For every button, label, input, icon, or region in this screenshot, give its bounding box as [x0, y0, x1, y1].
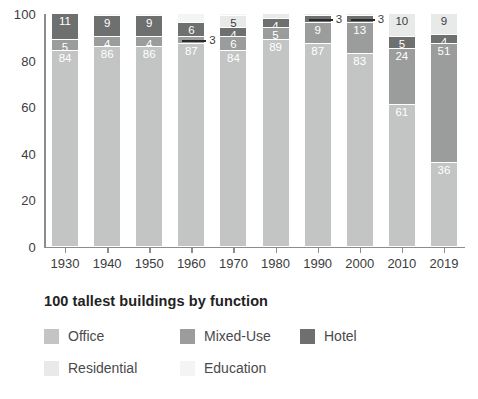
- bar-segment-value: 10: [389, 15, 415, 27]
- x-tick-mark: [149, 248, 150, 253]
- bar-segment-office[interactable]: 87: [305, 44, 331, 247]
- x-tick-label: 1970: [219, 256, 248, 271]
- legend-item-mixed_use[interactable]: Mixed-Use: [180, 328, 271, 344]
- bar-segment-mixed_use[interactable]: 4: [136, 37, 162, 46]
- x-tick-label: 1960: [177, 256, 206, 271]
- bar-segment-hotel[interactable]: 3: [347, 16, 373, 23]
- y-axis: 020406080100: [0, 0, 40, 290]
- legend-row: OfficeMixed-UseHotel: [44, 322, 464, 354]
- bar-segment-office[interactable]: 84: [220, 51, 246, 247]
- bar-2019[interactable]: 945136: [431, 14, 457, 247]
- bar-segment-value: 86: [136, 48, 162, 60]
- x-tick-mark: [360, 248, 361, 253]
- y-tick-label: 40: [21, 146, 36, 161]
- y-tick-label: 60: [21, 100, 36, 115]
- bar-segment-office[interactable]: 87: [178, 44, 204, 247]
- bar-1940[interactable]: 9486: [94, 14, 120, 247]
- bar-segment-value: 11: [52, 15, 78, 27]
- bar-segment-hotel[interactable]: 4: [431, 35, 457, 44]
- legend-item-hotel[interactable]: Hotel: [300, 328, 357, 344]
- bar-segment-office[interactable]: 61: [389, 105, 415, 247]
- y-tick-label: 20: [21, 193, 36, 208]
- x-tick-mark: [65, 248, 66, 253]
- legend-item-education[interactable]: Education: [180, 360, 266, 376]
- x-tick-mark: [276, 248, 277, 253]
- stacked-bar-chart: 020406080100 115849486948663875468445893…: [0, 0, 478, 399]
- bar-2000[interactable]: 31383: [347, 14, 373, 247]
- bar-segment-value: 9: [136, 17, 162, 29]
- bars-layer: 1158494869486638754684458939873138310524…: [44, 14, 465, 247]
- bar-segment-value: 36: [431, 164, 457, 176]
- x-tick-mark: [444, 248, 445, 253]
- chart-legend: OfficeMixed-UseHotelResidentialEducation: [44, 322, 464, 386]
- legend-swatch-education: [180, 361, 195, 376]
- bar-segment-office[interactable]: 89: [263, 40, 289, 247]
- bar-segment-hotel[interactable]: 6: [178, 23, 204, 37]
- bar-segment-education[interactable]: [178, 14, 204, 23]
- bar-segment-mixed_use[interactable]: 5: [52, 40, 78, 52]
- x-tick-label: 2000: [345, 256, 374, 271]
- bar-segment-mixed_use[interactable]: 4: [94, 37, 120, 46]
- bar-segment-hotel[interactable]: 4: [220, 28, 246, 37]
- bar-segment-mixed_use[interactable]: 13: [347, 23, 373, 53]
- bar-segment-mixed_use[interactable]: 24: [389, 49, 415, 105]
- x-tick-label: 2010: [387, 256, 416, 271]
- bar-segment-hotel[interactable]: 4: [263, 19, 289, 28]
- x-tick-label: 1940: [93, 256, 122, 271]
- legend-label: Mixed-Use: [204, 328, 271, 344]
- bar-2010[interactable]: 1052461: [389, 14, 415, 247]
- x-tick-label: 2019: [429, 256, 458, 271]
- bar-segment-office[interactable]: 86: [94, 47, 120, 247]
- legend-row: ResidentialEducation: [44, 354, 464, 386]
- bar-segment-value: 9: [94, 17, 120, 29]
- bar-segment-hotel[interactable]: 3: [305, 16, 331, 23]
- bar-1980[interactable]: 4589: [263, 14, 289, 247]
- bar-segment-hotel[interactable]: 9: [94, 16, 120, 37]
- bar-segment-mixed_use[interactable]: 6: [220, 37, 246, 51]
- bar-segment-value: 87: [178, 45, 204, 57]
- bar-segment-office[interactable]: 36: [431, 163, 457, 247]
- callout-value: 3: [336, 14, 342, 25]
- bar-segment-mixed_use[interactable]: 3: [178, 37, 204, 44]
- bar-1950[interactable]: 9486: [136, 14, 162, 247]
- callout-leader-line: [309, 19, 333, 21]
- bar-1960[interactable]: 6387: [178, 14, 204, 247]
- chart-caption: 100 tallest buildings by function: [44, 293, 268, 309]
- callout-value: 3: [209, 35, 215, 46]
- y-tick-label: 100: [14, 7, 36, 22]
- bar-segment-hotel[interactable]: 11: [52, 14, 78, 40]
- legend-swatch-mixed_use: [180, 329, 195, 344]
- bar-segment-value: 13: [347, 24, 373, 36]
- legend-item-office[interactable]: Office: [44, 328, 104, 344]
- bar-1970[interactable]: 54684: [220, 14, 246, 247]
- bar-segment-residential[interactable]: 10: [389, 14, 415, 37]
- bar-segment-office[interactable]: 86: [136, 47, 162, 247]
- bar-segment-value: 6: [178, 24, 204, 36]
- bar-segment-office[interactable]: 83: [347, 54, 373, 247]
- bar-segment-value: 83: [347, 55, 373, 67]
- bar-segment-residential[interactable]: 9: [431, 14, 457, 35]
- bar-1990[interactable]: 3987: [305, 14, 331, 247]
- bar-segment-mixed_use[interactable]: 5: [263, 28, 289, 40]
- bar-segment-hotel[interactable]: 9: [136, 16, 162, 37]
- bar-segment-mixed_use[interactable]: 9: [305, 23, 331, 44]
- x-tick-mark: [107, 248, 108, 253]
- legend-label: Office: [68, 328, 104, 344]
- x-tick-label: 1990: [303, 256, 332, 271]
- legend-item-residential[interactable]: Residential: [44, 360, 137, 376]
- bar-segment-residential[interactable]: 5: [220, 16, 246, 28]
- legend-label: Residential: [68, 360, 137, 376]
- bar-segment-value: 84: [220, 52, 246, 64]
- bar-segment-hotel[interactable]: 5: [389, 37, 415, 49]
- legend-swatch-office: [44, 329, 59, 344]
- plot-area: 020406080100 115849486948663875468445893…: [0, 0, 478, 290]
- bar-segment-mixed_use[interactable]: 51: [431, 44, 457, 163]
- x-tick-mark: [233, 248, 234, 253]
- callout-value: 3: [378, 14, 384, 25]
- bar-segment-value: 9: [431, 15, 457, 27]
- bar-1930[interactable]: 11584: [52, 14, 78, 247]
- y-tick-label: 80: [21, 53, 36, 68]
- bar-segment-value: 84: [52, 52, 78, 64]
- bar-segment-office[interactable]: 84: [52, 51, 78, 247]
- bar-segment-value: 9: [305, 24, 331, 36]
